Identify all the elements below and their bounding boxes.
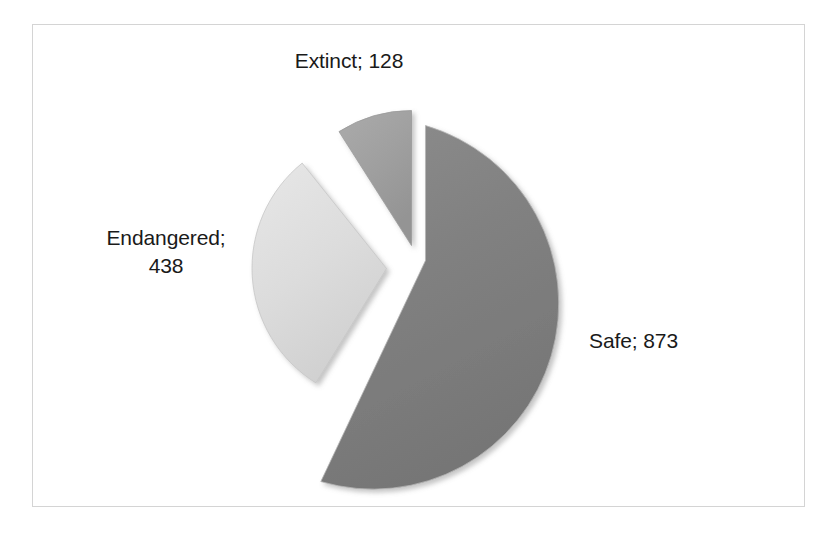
pie-chart-figure: Extinct; 128 Endangered; 438 Safe; 873 <box>0 0 837 534</box>
pie-label-safe: Safe; 873 <box>589 327 769 355</box>
pie-label-endangered: Endangered; 438 <box>88 224 244 279</box>
pie-label-extinct: Extinct; 128 <box>275 47 423 75</box>
pie-label-endangered-line1: Endangered; <box>88 224 244 252</box>
pie-label-endangered-line2: 438 <box>88 252 244 280</box>
